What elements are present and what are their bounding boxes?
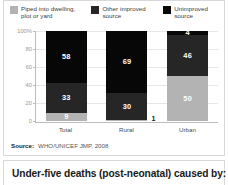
legend-item-unimproved: Unimproved source [163, 5, 220, 20]
bar-value-label: 33 [62, 94, 71, 101]
bar-value-label: 50 [183, 95, 192, 102]
bar-segment-other-improved[interactable]: 30 [106, 93, 147, 120]
bar-value-label: 58 [62, 53, 71, 60]
bar-segment-other-improved[interactable]: 33 [46, 83, 87, 113]
legend-swatch-piped-icon [10, 6, 18, 14]
chart-panel: Piped into dwelling, plot or yard Other … [3, 0, 225, 156]
bar-slot-rural: 69 30 1 [99, 31, 155, 121]
y-tick-label: 0 [29, 118, 32, 124]
y-tick-label: 60 [26, 64, 32, 70]
bar-segment-piped[interactable]: 50 [167, 76, 208, 121]
bar-slot-urban: 4 46 50 [160, 31, 216, 121]
y-tick-label: 20 [26, 100, 32, 106]
bar-value-label: 46 [183, 52, 192, 59]
bar-value-label: 69 [123, 58, 132, 65]
legend-swatch-other-improved-icon [91, 6, 99, 14]
plot-canvas: 58 33 9 [35, 31, 218, 123]
plot-area: 100% 80 60 40 20 0 [4, 31, 224, 131]
legend-label-piped: Piped into dwelling, plot or yard [21, 5, 86, 20]
source-label: Source: [11, 142, 34, 149]
x-tick-label-urban: Urban [160, 126, 216, 133]
bar-segment-other-improved[interactable]: 46 [167, 35, 208, 76]
bottom-heading: Under-five deaths (post-neonatal) caused… [4, 168, 226, 179]
legend-item-piped: Piped into dwelling, plot or yard [10, 5, 86, 20]
y-tick-label: 40 [26, 82, 32, 88]
bar-value-label: 9 [64, 113, 68, 120]
legend-label-other-improved: Other improved source [102, 5, 158, 20]
stacked-bar-urban[interactable]: 4 46 50 [167, 31, 208, 121]
y-tick-label: 80 [26, 46, 32, 52]
bar-segment-unimproved[interactable]: 69 [106, 31, 147, 93]
stacked-bar-total[interactable]: 58 33 9 [46, 31, 87, 121]
legend-swatch-unimproved-icon [163, 6, 171, 14]
legend-item-other-improved: Other improved source [91, 5, 158, 20]
bar-slot-total: 58 33 9 [38, 31, 94, 121]
chart-legend: Piped into dwelling, plot or yard Other … [10, 5, 220, 31]
y-tick-label: 100% [17, 28, 32, 34]
bar-group: 58 33 9 [36, 31, 218, 121]
bottom-panel: Under-five deaths (post-neonatal) caused… [3, 160, 225, 185]
axis-tick [33, 121, 36, 122]
bar-value-label: 1 [151, 115, 155, 122]
bar-segment-unimproved[interactable]: 58 [46, 31, 87, 83]
stacked-bar-rural[interactable]: 69 30 1 [106, 31, 147, 121]
bar-segment-piped[interactable]: 9 [46, 113, 87, 121]
x-tick-label-total: Total [38, 126, 94, 133]
chart-figure: Piped into dwelling, plot or yard Other … [0, 0, 228, 185]
bar-segment-piped[interactable]: 1 [106, 120, 147, 121]
x-axis: Total Rural Urban [35, 126, 218, 133]
x-tick-label-rural: Rural [99, 126, 155, 133]
source-text: WHO/UNICEF JMP, 2008 [38, 142, 108, 149]
source-line: Source:WHO/UNICEF JMP, 2008 [11, 142, 108, 149]
bar-value-label: 30 [123, 103, 132, 110]
legend-label-unimproved: Unimproved source [174, 5, 220, 20]
y-axis: 100% 80 60 40 20 0 [4, 31, 35, 123]
